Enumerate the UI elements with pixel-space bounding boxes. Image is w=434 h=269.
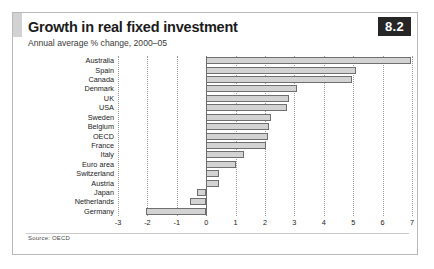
- x-tick-label: 1: [226, 218, 246, 227]
- bar: [206, 114, 271, 121]
- category-label: Sweden: [88, 113, 114, 122]
- bar: [206, 123, 269, 130]
- bars-and-gridlines: -3-2-101234567: [118, 56, 412, 216]
- bar: [206, 151, 244, 158]
- bar: [206, 170, 219, 177]
- chart-title: Growth in real fixed investment: [28, 19, 238, 35]
- x-tick-label: 6: [373, 218, 393, 227]
- gridline-neg3: [118, 56, 119, 216]
- category-label: Spain: [95, 66, 114, 75]
- bar: [206, 76, 352, 83]
- x-tick-label: -2: [137, 218, 157, 227]
- category-label: France: [91, 141, 114, 150]
- x-tick-label: 2: [255, 218, 275, 227]
- bar: [206, 142, 266, 149]
- footer-divider: [26, 233, 409, 234]
- bar: [146, 208, 206, 215]
- bar: [206, 133, 268, 140]
- category-label: Japan: [94, 188, 114, 197]
- category-label: Italy: [101, 150, 114, 159]
- bar: [197, 189, 206, 196]
- category-label: Australia: [86, 56, 114, 65]
- category-label: UK: [104, 94, 114, 103]
- chart-panel: 8.2 Growth in real fixed investment Annu…: [12, 12, 418, 255]
- category-label: Canada: [88, 75, 114, 84]
- bar: [206, 57, 410, 64]
- x-tick-label: 3: [284, 218, 304, 227]
- chart-subtitle: Annual average % change, 2000–05: [28, 38, 167, 48]
- category-label: Euro area: [82, 160, 114, 169]
- chapter-badge: 8.2: [378, 17, 411, 36]
- category-label: USA: [99, 103, 114, 112]
- gridline-neg2: [147, 56, 148, 216]
- category-label: Austria: [91, 179, 114, 188]
- x-tick-label: 5: [343, 218, 363, 227]
- category-label: Denmark: [84, 84, 114, 93]
- gridline-neg1: [177, 56, 178, 216]
- bar: [190, 198, 206, 205]
- source-note: Source: OECD: [28, 235, 70, 241]
- category-label: OECD: [93, 132, 114, 141]
- bar: [206, 67, 356, 74]
- x-tick-label: 4: [314, 218, 334, 227]
- gridline-6: [383, 56, 384, 216]
- gridline-5: [353, 56, 354, 216]
- x-tick-label: -3: [108, 218, 128, 227]
- category-axis-labels: AustraliaSpainCanadaDenmarkUKUSASwedenBe…: [26, 56, 114, 216]
- bar: [206, 180, 219, 187]
- x-tick-label: 0: [196, 218, 216, 227]
- x-tick-label: 7: [402, 218, 422, 227]
- x-tick-label: -1: [167, 218, 187, 227]
- category-label: Netherlands: [75, 197, 114, 206]
- corner-tab: [13, 13, 22, 37]
- gridline-7: [412, 56, 413, 216]
- bar: [206, 85, 297, 92]
- bar: [206, 95, 288, 102]
- category-label: Switzerland: [76, 169, 114, 178]
- bar: [206, 104, 287, 111]
- category-label: Germany: [84, 207, 114, 216]
- category-label: Belgium: [88, 122, 114, 131]
- bar: [206, 161, 235, 168]
- plot-area: AustraliaSpainCanadaDenmarkUKUSASwedenBe…: [26, 56, 414, 231]
